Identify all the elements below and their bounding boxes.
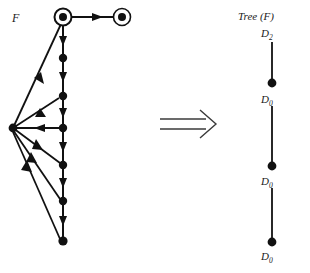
figure-root: F Tree (F) D2 D0 D0 D0 bbox=[0, 0, 310, 273]
tree-node-t4 bbox=[268, 238, 277, 247]
tree-node-label-t3: D0 bbox=[261, 176, 273, 190]
tree-node-label-t3-base: D bbox=[261, 175, 269, 187]
edge-entry-to-hub-arrowhead bbox=[34, 72, 44, 84]
right-tree bbox=[268, 42, 277, 246]
right-tree-caption: Tree (F) bbox=[238, 11, 274, 22]
tree-node-label-t1: D2 bbox=[261, 28, 273, 42]
tree-node-label-t1-base: D bbox=[261, 27, 269, 39]
node-entry bbox=[55, 9, 72, 26]
tree-node-label-t4-sub: 0 bbox=[269, 256, 273, 265]
tree-node-t3 bbox=[268, 162, 277, 171]
node-s2 bbox=[59, 92, 67, 100]
node-exit bbox=[114, 9, 131, 26]
tree-node-label-t4: D0 bbox=[261, 251, 273, 265]
left-graph-caption: F bbox=[12, 12, 19, 24]
node-hub bbox=[9, 124, 18, 133]
tree-node-label-t4-base: D bbox=[261, 250, 269, 262]
implication-arrow-icon bbox=[160, 110, 216, 138]
tree-node-label-t2: D0 bbox=[261, 94, 273, 108]
edge-s3-to-hub-arrowhead bbox=[34, 124, 45, 132]
edge-entry-to-exit-arrowhead bbox=[92, 13, 103, 21]
tree-node-label-t3-sub: 0 bbox=[269, 181, 273, 190]
tree-node-t2 bbox=[268, 79, 277, 88]
tree-node-label-t2-base: D bbox=[261, 93, 269, 105]
edge-hub-to-s5-arrowhead bbox=[26, 152, 37, 163]
tree-node-label-t2-sub: 0 bbox=[269, 99, 273, 108]
node-s3 bbox=[59, 124, 67, 132]
node-s1 bbox=[59, 54, 67, 62]
left-graph bbox=[9, 9, 131, 246]
node-s4 bbox=[59, 161, 67, 169]
tree-node-label-t1-sub: 2 bbox=[269, 33, 273, 42]
node-s6 bbox=[58, 236, 67, 245]
edge-hub-to-s4-arrowhead bbox=[32, 139, 43, 150]
node-s5 bbox=[59, 197, 67, 205]
